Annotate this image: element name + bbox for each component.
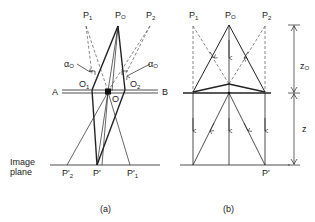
label-z: z <box>302 124 307 134</box>
center-point-o <box>105 89 111 95</box>
label-p1-a: P1 <box>83 10 93 21</box>
diagram-canvas: P1 PO P2 αO αO O1 O2 O A B Image plane P… <box>0 0 315 222</box>
lower-arrowheads-b <box>193 118 265 131</box>
label-image-plane-2: plane <box>10 167 32 177</box>
label-b: B <box>162 87 168 97</box>
label-p0-a: PO <box>115 10 126 20</box>
label-o: O <box>112 94 119 104</box>
label-alpha-left: αO <box>64 59 74 69</box>
label-alpha-right: αO <box>148 59 158 69</box>
diagram-b: P1 PO P2 zO z P' (b) <box>180 10 310 214</box>
diagram-a: P1 PO P2 αO αO O1 O2 O A B Image plane P… <box>10 10 168 214</box>
label-p2-b: P2 <box>262 10 272 21</box>
lens-outline-a <box>92 26 125 165</box>
label-o1: O1 <box>79 79 90 90</box>
label-p0-b: PO <box>225 10 236 20</box>
caption-a: (a) <box>100 204 111 214</box>
dimension-line <box>288 25 300 165</box>
label-p1-b: P1 <box>189 10 199 21</box>
label-p2-a: P2 <box>146 10 156 21</box>
label-o2: O2 <box>130 79 141 90</box>
label-z0: zO <box>300 61 310 71</box>
label-p1-prime: P'1 <box>127 168 139 179</box>
label-a: A <box>52 87 58 97</box>
label-p-prime-a: P' <box>93 168 101 178</box>
label-p2-prime: P'2 <box>62 168 74 179</box>
caption-b: (b) <box>223 204 234 214</box>
label-image-plane-1: Image <box>10 157 35 167</box>
label-p-prime-b: P' <box>262 168 270 178</box>
